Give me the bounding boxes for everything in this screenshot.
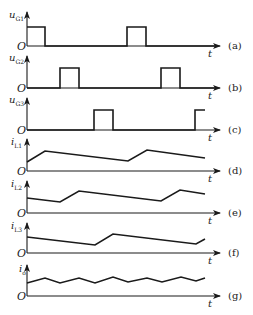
panel-g: io O t (g)	[17, 263, 242, 309]
caption-c: (c)	[228, 124, 242, 135]
ylabel-a: uG1	[9, 9, 24, 22]
ylabel-f: iL3	[11, 220, 22, 233]
panel-c: uG3 O t (c)	[9, 94, 242, 143]
origin-label-f: O	[17, 247, 26, 260]
panel-d: iL1 O t (d)	[11, 136, 242, 184]
caption-a: (a)	[228, 40, 242, 51]
ylabel-d: iL1	[11, 136, 22, 149]
ylabel-b: uG2	[9, 52, 24, 65]
t-label-d: t	[208, 173, 213, 184]
gate-pulse-ug2	[27, 68, 215, 88]
inductor-current-il1	[27, 150, 205, 162]
origin-label-b: O	[17, 82, 26, 95]
waveform-diagram: uG1 O t (a) uG2 O t (b) uG3 O t (c) iL1 …	[0, 0, 253, 315]
gate-pulse-ug1	[27, 27, 215, 46]
origin-label-g: O	[17, 290, 26, 303]
t-label-b: t	[208, 90, 213, 101]
origin-label-e: O	[17, 207, 26, 220]
caption-b: (b)	[228, 82, 242, 93]
gate-pulse-ug3	[27, 110, 205, 130]
panel-e: iL2 O t (e)	[11, 178, 242, 226]
inductor-current-il3	[27, 234, 205, 245]
caption-e: (e)	[228, 207, 242, 218]
ylabel-g: io	[19, 263, 26, 276]
panel-f: iL3 O t (f)	[11, 220, 240, 266]
t-label-a: t	[208, 48, 213, 59]
caption-g: (g)	[228, 290, 242, 301]
ylabel-c: uG3	[9, 94, 24, 107]
caption-f: (f)	[228, 247, 240, 258]
caption-d: (d)	[228, 165, 242, 176]
t-label-c: t	[208, 132, 213, 143]
origin-label-d: O	[17, 165, 26, 178]
t-label-f: t	[208, 255, 213, 266]
ylabel-e: iL2	[11, 178, 22, 191]
inductor-current-il2	[27, 190, 205, 202]
panel-b: uG2 O t (b)	[9, 52, 242, 101]
t-label-e: t	[208, 215, 213, 226]
origin-label-c: O	[17, 124, 26, 137]
t-label-g: t	[208, 298, 213, 309]
origin-label-a: O	[17, 40, 26, 53]
output-current-io	[27, 277, 205, 283]
panel-a: uG1 O t (a)	[9, 9, 242, 59]
